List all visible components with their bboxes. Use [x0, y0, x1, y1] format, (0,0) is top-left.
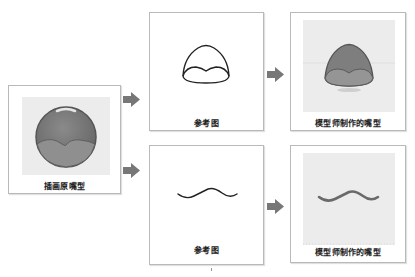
arrow-icon [267, 199, 284, 214]
bottom-result-label: 模型师制作的嘴型 [291, 246, 405, 257]
arrow-icon [123, 163, 140, 178]
bottom-result-image [303, 153, 395, 245]
bottom-result-panel: 模型师制作的嘴型 [290, 145, 406, 263]
original-mouth-label: 插画原嘴型 [9, 180, 120, 191]
arrow-icon [123, 92, 140, 107]
top-reference-label: 参考图 [150, 117, 263, 128]
arrow-icon [267, 67, 284, 82]
round-mouth-icon [22, 97, 110, 175]
top-result-label: 模型师制作的嘴型 [291, 117, 405, 128]
decorative-tick [211, 268, 212, 271]
original-mouth-image [22, 97, 110, 175]
open-mouth-model-icon [303, 20, 395, 112]
top-result-panel: 模型师制作的嘴型 [290, 12, 406, 131]
top-result-image [303, 20, 395, 112]
wavy-mouth-model-icon [303, 153, 395, 245]
wavy-mouth-outline-icon [150, 146, 265, 236]
bottom-reference-label: 参考图 [150, 244, 263, 255]
top-reference-panel: 参考图 [149, 12, 264, 131]
open-mouth-outline-icon [150, 13, 265, 113]
original-mouth-panel: 插画原嘴型 [8, 85, 121, 194]
bottom-reference-panel: 参考图 [149, 145, 264, 265]
